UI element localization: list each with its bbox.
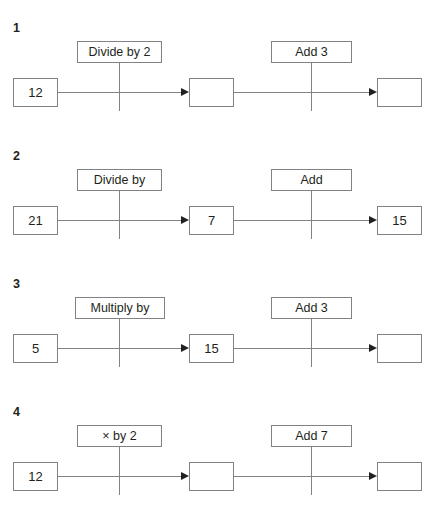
problem-row: 1 12 Divide by 2 Add 3	[0, 22, 433, 132]
operation-label-box[interactable]: Add 3	[271, 297, 352, 319]
start-value-box[interactable]: 12	[13, 78, 58, 107]
connector-line-second	[234, 348, 369, 349]
connector-line-second	[234, 220, 369, 221]
middle-value-box[interactable]	[189, 462, 234, 491]
start-value-box[interactable]: 21	[13, 206, 58, 235]
arrow-head-icon	[369, 216, 377, 224]
end-value-box[interactable]	[377, 334, 422, 363]
end-value-box[interactable]: 15	[377, 206, 422, 235]
start-value-box[interactable]: 12	[13, 462, 58, 491]
operation-stem-line	[311, 63, 312, 111]
problem-row: 3 5 15 Multiply by Add 3	[0, 278, 433, 388]
operation-label-box[interactable]: Divide by	[77, 169, 162, 191]
operation-label-box[interactable]: × by 2	[77, 425, 162, 447]
operation-stem-line	[311, 447, 312, 495]
operation-stem-line	[311, 319, 312, 367]
connector-line-second	[234, 92, 369, 93]
end-value-box[interactable]	[377, 78, 422, 107]
middle-value-box[interactable]	[189, 78, 234, 107]
end-value-box[interactable]	[377, 462, 422, 491]
operation-label-box[interactable]: Add	[271, 169, 352, 191]
problem-row: 4 12 × by 2 Add 7	[0, 406, 433, 513]
arrow-head-icon	[369, 344, 377, 352]
operation-stem-line	[119, 447, 120, 495]
problem-number: 3	[13, 278, 20, 291]
operation-label-box[interactable]: Add 3	[271, 41, 352, 63]
connector-line-second	[234, 476, 369, 477]
middle-value-box[interactable]: 15	[189, 334, 234, 363]
operation-label-box[interactable]: Multiply by	[75, 297, 165, 319]
middle-value-box[interactable]: 7	[189, 206, 234, 235]
arrow-head-icon	[369, 472, 377, 480]
operation-label-box[interactable]: Add 7	[271, 425, 352, 447]
problem-number: 2	[13, 150, 20, 163]
arrow-head-icon	[369, 88, 377, 96]
operation-stem-line	[119, 319, 120, 367]
problem-number: 1	[13, 22, 20, 35]
problem-row: 2 21 7 15 Divide by Add	[0, 150, 433, 260]
arrow-head-icon	[181, 216, 189, 224]
problem-number: 4	[13, 406, 20, 419]
start-value-box[interactable]: 5	[13, 334, 58, 363]
operation-label-box[interactable]: Divide by 2	[77, 41, 162, 63]
arrow-head-icon	[181, 472, 189, 480]
operation-stem-line	[311, 191, 312, 239]
arrow-head-icon	[181, 344, 189, 352]
operation-stem-line	[119, 63, 120, 111]
operation-stem-line	[119, 191, 120, 239]
worksheet: 1 12 Divide by 2 Add 3 2 21 7 15 Divide …	[0, 0, 433, 513]
arrow-head-icon	[181, 88, 189, 96]
